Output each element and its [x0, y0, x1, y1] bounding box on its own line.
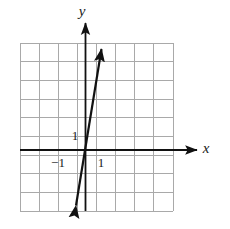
x-tick-label-neg-1: −1: [51, 155, 65, 170]
y-axis-label: y: [77, 3, 86, 19]
graph-figure: x y 1 −1 1: [0, 0, 230, 229]
x-tick-label-1: 1: [98, 155, 105, 170]
figure-background: [0, 0, 230, 229]
coordinate-plane: x y 1 −1 1: [0, 0, 230, 229]
x-axis-label: x: [202, 140, 210, 156]
y-tick-label-1: 1: [72, 128, 79, 143]
